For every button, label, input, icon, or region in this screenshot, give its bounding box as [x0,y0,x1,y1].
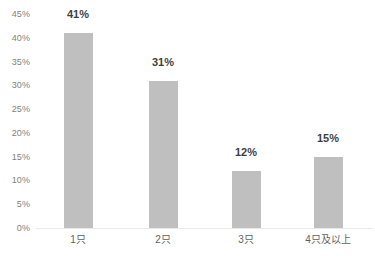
category-label: 2只 [121,234,205,246]
bar-value-label: 15% [293,132,363,144]
y-tick-label: 25% [0,104,30,114]
bar-group-1: 31% 2只 [121,0,205,258]
y-tick-label: 45% [0,9,30,19]
bar-group-2: 12% 3只 [204,0,288,258]
y-tick-label: 40% [0,33,30,43]
y-tick-label: 30% [0,80,30,90]
bar-value-label: 12% [211,146,281,158]
bar-chart: 45% 40% 35% 30% 25% 20% 15% 10% 5% 0% 41… [0,0,375,258]
category-label: 3只 [204,234,288,246]
bar-group-3: 15% 4只及以上 [286,0,370,258]
bar[interactable] [64,33,93,228]
category-label: 4只及以上 [286,234,370,246]
bar-value-label: 41% [43,8,113,20]
bar[interactable] [149,81,178,228]
category-label: 1只 [36,234,120,246]
y-tick-label: 15% [0,152,30,162]
bar-group-0: 41% 1只 [36,0,120,258]
y-tick-label: 0% [0,223,30,233]
plot-area: 41% 1只 31% 2只 12% 3只 15% 4只及以上 [36,0,375,258]
y-tick-label: 35% [0,57,30,67]
bar[interactable] [314,157,343,228]
y-tick-label: 5% [0,199,30,209]
y-tick-label: 10% [0,175,30,185]
bar-value-label: 31% [128,56,198,68]
y-axis: 45% 40% 35% 30% 25% 20% 15% 10% 5% 0% [0,0,34,258]
y-tick-label: 20% [0,128,30,138]
bar[interactable] [232,171,261,228]
